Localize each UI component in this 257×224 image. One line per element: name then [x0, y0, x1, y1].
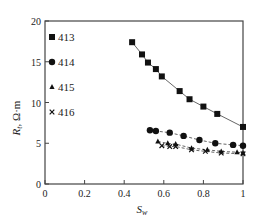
- legend-label-414: 414: [58, 56, 75, 68]
- data-point-414: [230, 142, 236, 148]
- ylabel-unit: , Ω·m: [10, 100, 22, 126]
- y-axis-label: Rt, Ω·m: [10, 100, 24, 136]
- legend-label-416: 416: [58, 106, 75, 118]
- y-tick-label: 20: [31, 16, 41, 27]
- data-point-414: [147, 127, 153, 133]
- y-tick-label: 5: [36, 138, 41, 149]
- fit-curve-413: [132, 42, 243, 127]
- data-point-414: [240, 142, 246, 148]
- data-point-414: [153, 128, 159, 134]
- legend-marker-413: [49, 34, 55, 40]
- data-point-413: [145, 60, 151, 66]
- data-point-414: [212, 140, 218, 146]
- data-point-413: [187, 96, 193, 102]
- svg-text:Sw: Sw: [137, 203, 149, 217]
- x-tick-label: 0.6: [158, 188, 171, 199]
- plot-area-border: [45, 21, 243, 184]
- x-tick-label: 0: [43, 188, 48, 199]
- y-tick-label: 0: [36, 179, 41, 190]
- y-tick-label: 15: [31, 57, 41, 68]
- x-tick-label: 0.2: [78, 188, 91, 199]
- x-tick-label: 0.8: [197, 188, 210, 199]
- data-point-415: [155, 139, 160, 144]
- data-point-413: [240, 124, 246, 130]
- legend-marker-415: [49, 84, 54, 89]
- chart-container: 00.20.40.60.8105101520 413 414 415 416 R…: [0, 0, 257, 224]
- svg-text:Rt, Ω·m: Rt, Ω·m: [10, 100, 24, 136]
- y-tick-label: 10: [31, 98, 41, 109]
- legend: 413 414 415 416: [49, 31, 75, 118]
- data-point-415: [234, 149, 239, 154]
- x-tick-label: 1: [241, 188, 246, 199]
- data-point-413: [139, 51, 145, 57]
- data-point-414: [196, 137, 202, 143]
- plot-frame: [45, 21, 243, 184]
- chart-svg: 00.20.40.60.8105101520 413 414 415 416 R…: [0, 0, 257, 224]
- data-point-414: [167, 129, 173, 135]
- data-point-413: [159, 73, 165, 79]
- data-point-413: [129, 39, 135, 45]
- legend-marker-416: [50, 110, 55, 115]
- legend-label-415: 415: [58, 81, 75, 93]
- data-point-413: [153, 66, 159, 72]
- data-point-413: [177, 88, 183, 94]
- data-point-413: [214, 111, 220, 117]
- x-axis-label: Sw: [137, 203, 149, 217]
- legend-marker-414: [49, 59, 55, 65]
- xlabel-sub: w: [142, 208, 148, 217]
- data-points: [129, 39, 246, 156]
- legend-label-413: 413: [58, 31, 75, 43]
- x-tick-label: 0.4: [118, 188, 131, 199]
- data-point-413: [200, 104, 206, 110]
- series-413: [129, 39, 246, 130]
- data-point-414: [180, 133, 186, 139]
